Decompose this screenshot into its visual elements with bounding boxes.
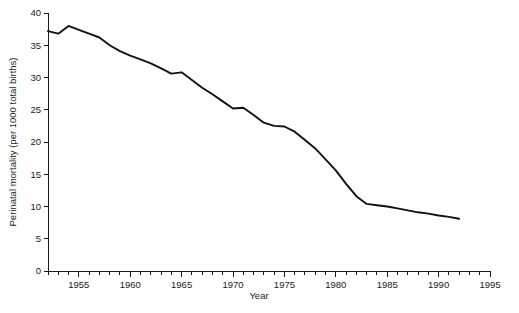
y-tick-label: 5	[36, 233, 41, 244]
x-tick-label: 1975	[274, 279, 295, 290]
x-axis: 195519601965197019751980198519901995	[48, 271, 501, 290]
y-tick-label: 0	[36, 265, 41, 276]
x-tick-label: 1995	[479, 279, 500, 290]
x-axis-title: Year	[249, 290, 268, 301]
x-tick-label: 1955	[68, 279, 89, 290]
y-tick-label: 10	[30, 201, 41, 212]
series-line-perinatal-mortality	[48, 26, 459, 219]
data-series-group	[48, 26, 459, 219]
x-tick-label: 1990	[428, 279, 449, 290]
y-axis: 0510152025303540	[30, 7, 48, 276]
y-tick-label: 25	[30, 104, 41, 115]
x-tick-label: 1965	[171, 279, 192, 290]
x-tick-label: 1960	[120, 279, 141, 290]
chart-container: 0510152025303540 19551960196519701975198…	[0, 0, 519, 313]
line-chart: 0510152025303540 19551960196519701975198…	[0, 0, 519, 313]
x-tick-label: 1985	[377, 279, 398, 290]
y-tick-label: 30	[30, 72, 41, 83]
y-tick-label: 40	[30, 7, 41, 18]
y-axis-title: Perinatal mortality (per 1000 total birt…	[7, 58, 18, 227]
y-tick-label: 35	[30, 40, 41, 51]
y-tick-label: 20	[30, 136, 41, 147]
x-tick-label: 1970	[222, 279, 243, 290]
y-tick-label: 15	[30, 169, 41, 180]
x-tick-label: 1980	[325, 279, 346, 290]
